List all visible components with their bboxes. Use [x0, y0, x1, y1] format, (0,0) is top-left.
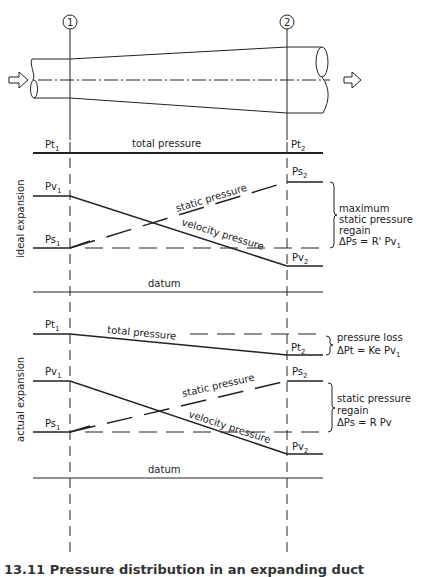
svg-text:pressure loss: pressure loss [337, 332, 403, 343]
actual-loss-annotation: pressure loss ΔPt = Ke Pv1 [337, 332, 403, 359]
actual-static-pressure-text: static pressure [181, 372, 255, 399]
actual-regain-brace [328, 383, 335, 432]
figure-caption: 13.11 Pressure distribution in an expand… [4, 562, 364, 577]
ideal-velocity-pressure-text: velocity pressure [180, 216, 265, 252]
ideal-total-pressure-text: total pressure [132, 138, 201, 149]
svg-text:ΔPs = R' Pv1: ΔPs = R' Pv1 [339, 236, 401, 250]
ideal-regain-annotation: maximum static pressure regain ΔPs = R' … [339, 203, 413, 250]
svg-text:maximum: maximum [339, 203, 389, 214]
actual-ps1-label: Ps1 [45, 418, 61, 432]
actual-static-pressure-line [70, 381, 287, 432]
ideal-ps2-label: Ps2 [292, 166, 308, 180]
inlet-arrow-icon [9, 72, 28, 88]
expanding-duct [31, 47, 331, 113]
ideal-regain-brace [330, 182, 337, 248]
svg-text:static pressure: static pressure [339, 214, 413, 225]
actual-velocity-pressure-text: velocity pressure [187, 408, 272, 445]
svg-text:regain: regain [339, 225, 371, 236]
ideal-ps1-label: Ps1 [45, 234, 61, 248]
actual-pt1-label: Pt1 [45, 319, 59, 333]
section-2-number: 2 [284, 17, 290, 28]
actual-loss-brace [326, 336, 333, 355]
actual-velocity-pressure-line [33, 381, 323, 454]
svg-text:static pressure: static pressure [337, 393, 411, 404]
actual-regain-annotation: static pressure regain ΔPs = R Pv [337, 393, 411, 428]
ideal-pv2-label: Pv2 [292, 252, 308, 266]
svg-text:ΔPs = R Pv: ΔPs = R Pv [337, 417, 392, 428]
ideal-pt2-label: Pt2 [291, 139, 305, 153]
actual-pt2-label: Pt2 [291, 342, 305, 356]
svg-text:regain: regain [337, 405, 369, 416]
actual-pv1-label: Pv1 [45, 366, 61, 380]
ideal-datum-text: datum [148, 278, 180, 289]
actual-side-label: actual expansion [15, 357, 26, 442]
section-1-number: 1 [67, 17, 73, 28]
ideal-pv1-label: Pv1 [45, 181, 61, 195]
outlet-arrow-icon [344, 72, 361, 88]
actual-pv2-label: Pv2 [292, 441, 308, 455]
ideal-side-label: ideal expansion [15, 179, 26, 258]
ideal-pt1-label: Pt1 [45, 139, 59, 153]
actual-ps2-label: Ps2 [292, 366, 308, 380]
actual-total-pressure-line [33, 334, 323, 355]
actual-datum-text: datum [148, 464, 180, 475]
svg-text:ΔPt = Ke Pv1: ΔPt = Ke Pv1 [337, 345, 400, 359]
